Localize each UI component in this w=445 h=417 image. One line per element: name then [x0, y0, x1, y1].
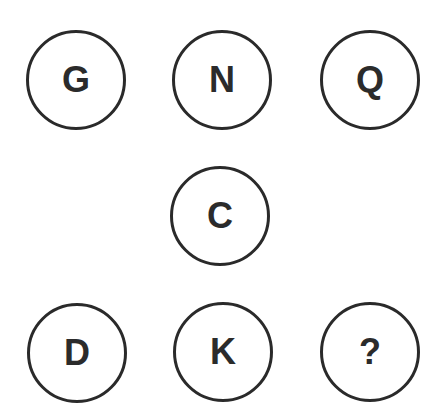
circle-letter: D [64, 335, 90, 371]
circle-c: C [170, 166, 270, 266]
circle-letter: G [62, 62, 90, 98]
circle-g: G [26, 30, 126, 130]
circle-q: Q [320, 30, 420, 130]
circle-letter: C [207, 198, 233, 234]
circle-d: D [27, 303, 127, 403]
question-mark: ? [359, 334, 381, 370]
circle-k: K [173, 302, 273, 402]
circle-letter: Q [356, 62, 384, 98]
circle-question: ? [320, 302, 420, 402]
circle-n: N [172, 30, 272, 130]
circle-letter: K [210, 334, 236, 370]
circle-letter: N [209, 62, 235, 98]
